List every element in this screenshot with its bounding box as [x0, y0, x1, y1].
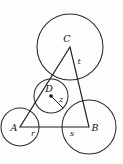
label-center-d: D: [44, 83, 53, 94]
label-vertex-b: B: [91, 122, 99, 133]
label-side-r: r: [31, 129, 36, 138]
label-vertex-a: A: [10, 122, 18, 133]
geometry-figure: C A B D r s t z: [0, 0, 123, 164]
label-side-t: t: [77, 57, 81, 66]
label-side-s: s: [70, 129, 74, 138]
label-vertex-c: C: [63, 33, 71, 44]
geometry-canvas: C A B D r s t z: [0, 0, 123, 164]
center-dot-d: [49, 94, 53, 98]
label-radius-z: z: [58, 95, 64, 104]
